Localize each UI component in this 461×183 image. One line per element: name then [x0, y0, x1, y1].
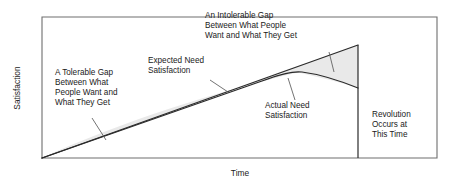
annotation-expected-need-line-2: Satisfaction — [148, 66, 191, 75]
annotation-expected-need: Expected Need Satisfaction — [148, 56, 220, 75]
actual-need-leader-line — [288, 78, 295, 100]
annotation-intolerable-gap-line-2: Between What People — [205, 21, 286, 30]
annotation-tolerable-gap-line-3: People Want and — [55, 88, 118, 97]
annotation-revolution-line-2: Occurs at — [372, 120, 408, 129]
y-axis-label: Satisfaction — [12, 66, 22, 110]
annotation-expected-need-line-1: Expected Need — [148, 56, 204, 65]
annotation-actual-need: Actual Need Satisfaction — [265, 101, 326, 120]
annotation-actual-need-line-1: Actual Need — [265, 101, 310, 110]
annotation-intolerable-gap: An Intolerable Gap Between What People W… — [205, 11, 308, 40]
annotation-intolerable-gap-line-1: An Intolerable Gap — [205, 11, 274, 20]
x-axis-label: Time — [231, 168, 250, 178]
annotation-revolution: Revolution Occurs at This Time — [372, 110, 427, 139]
annotation-revolution-line-1: Revolution — [372, 110, 411, 119]
annotation-tolerable-gap-line-4: What They Get — [55, 98, 111, 107]
expected-need-leader-line — [210, 80, 228, 92]
intolerable-gap-region — [256, 45, 358, 88]
annotation-revolution-line-3: This Time — [372, 130, 408, 139]
annotation-tolerable-gap-line-1: A Tolerable Gap — [55, 68, 114, 77]
annotation-actual-need-line-2: Satisfaction — [265, 111, 308, 120]
j-curve-figure: Satisfaction Time A Tolerable Gap Betwee… — [0, 0, 461, 183]
j-curve-diagram: Satisfaction Time A Tolerable Gap Betwee… — [0, 0, 461, 183]
annotation-tolerable-gap: A Tolerable Gap Between What People Want… — [55, 68, 133, 107]
annotation-intolerable-gap-line-3: Want and What They Get — [205, 31, 298, 40]
annotation-tolerable-gap-line-2: Between What — [55, 78, 109, 87]
